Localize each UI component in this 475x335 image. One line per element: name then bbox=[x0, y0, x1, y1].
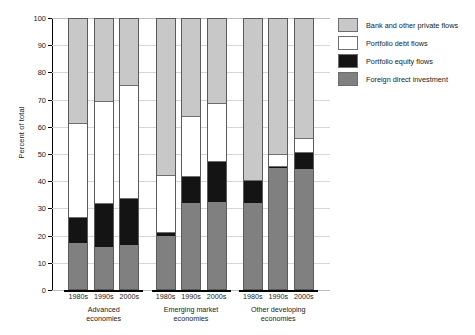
group-axis-rule bbox=[152, 290, 231, 292]
bar-segment bbox=[120, 245, 138, 289]
bar-segment bbox=[157, 175, 175, 232]
x-tick-label: 2000s bbox=[201, 292, 233, 301]
bar-segment bbox=[269, 18, 287, 154]
bar-segment bbox=[95, 18, 113, 101]
bar-segment bbox=[244, 180, 262, 203]
x-tick-label: 2000s bbox=[288, 292, 320, 301]
bar-segment bbox=[95, 101, 113, 203]
legend-item: Foreign direct investment bbox=[338, 70, 472, 88]
y-tick-mark bbox=[48, 181, 52, 182]
bar-segment bbox=[157, 236, 175, 289]
y-tick-label: 70 bbox=[38, 95, 46, 104]
legend-swatch bbox=[338, 72, 358, 86]
bar-stack bbox=[68, 18, 88, 290]
bar-segment bbox=[208, 161, 226, 202]
bar-segment bbox=[120, 85, 138, 198]
bar-segment bbox=[95, 203, 113, 247]
bar-segment bbox=[295, 169, 313, 289]
bar-segment bbox=[269, 168, 287, 289]
bar-segment bbox=[269, 154, 287, 165]
stacked-bar-chart: Percent of total 0102030405060708090100 … bbox=[0, 0, 475, 335]
bar-segment bbox=[269, 166, 287, 168]
group-label: Other developingeconomies bbox=[221, 305, 336, 323]
bar-segment bbox=[295, 152, 313, 170]
bar-segment bbox=[120, 18, 138, 85]
y-tick-mark bbox=[48, 208, 52, 209]
y-tick-mark bbox=[48, 45, 52, 46]
bar-segment bbox=[244, 18, 262, 180]
bar-segment bbox=[69, 217, 87, 243]
legend-label: Portfolio debt flows bbox=[366, 39, 428, 48]
y-tick-mark bbox=[48, 263, 52, 264]
y-tick-label: 100 bbox=[33, 14, 46, 23]
bar-segment bbox=[69, 243, 87, 289]
bar-segment bbox=[208, 202, 226, 289]
bar-stack bbox=[119, 18, 139, 290]
y-tick-mark bbox=[48, 72, 52, 73]
y-tick-label: 0 bbox=[42, 286, 46, 295]
bar-segment bbox=[69, 123, 87, 217]
y-tick-mark bbox=[48, 236, 52, 237]
bar-segment bbox=[182, 116, 200, 176]
group-label-line1: Other developing bbox=[221, 305, 336, 314]
legend-item: Portfolio debt flows bbox=[338, 34, 472, 52]
bar-stack bbox=[268, 18, 288, 290]
bar-segment bbox=[182, 203, 200, 289]
bar-segment bbox=[295, 138, 313, 152]
bar-segment bbox=[182, 18, 200, 116]
group-axis-rule bbox=[64, 290, 143, 292]
y-tick-mark bbox=[48, 100, 52, 101]
legend-item: Portfolio equity flows bbox=[338, 52, 472, 70]
legend-swatch bbox=[338, 36, 358, 50]
y-tick-label: 90 bbox=[38, 41, 46, 50]
legend-swatch bbox=[338, 54, 358, 68]
y-tick-label: 50 bbox=[38, 150, 46, 159]
y-tick-mark bbox=[48, 127, 52, 128]
x-tick-label: 2000s bbox=[113, 292, 145, 301]
bar-stack bbox=[156, 18, 176, 290]
legend-label: Portfolio equity flows bbox=[366, 57, 433, 66]
y-tick-label: 60 bbox=[38, 122, 46, 131]
legend-item: Bank and other private flows bbox=[338, 16, 472, 34]
y-tick-label: 10 bbox=[38, 258, 46, 267]
bar-segment bbox=[157, 18, 175, 175]
group-label-line2: economies bbox=[221, 314, 336, 323]
bar-segment bbox=[208, 18, 226, 103]
y-tick-label: 20 bbox=[38, 231, 46, 240]
y-axis-label: Percent of total bbox=[17, 78, 26, 188]
y-tick-label: 30 bbox=[38, 204, 46, 213]
bar-segment bbox=[120, 198, 138, 246]
bar-segment bbox=[95, 247, 113, 289]
bar-segment bbox=[69, 18, 87, 123]
bar-segment bbox=[295, 18, 313, 138]
bar-stack bbox=[207, 18, 227, 290]
group-axis-rule bbox=[239, 290, 318, 292]
legend-label: Bank and other private flows bbox=[366, 21, 458, 30]
plot-area bbox=[52, 18, 330, 290]
bar-segment bbox=[182, 176, 200, 203]
y-tick-label: 40 bbox=[38, 177, 46, 186]
bar-stack bbox=[94, 18, 114, 290]
y-tick-label: 80 bbox=[38, 68, 46, 77]
bar-segment bbox=[157, 232, 175, 236]
bar-segment bbox=[208, 103, 226, 161]
bar-stack bbox=[243, 18, 263, 290]
bar-stack bbox=[181, 18, 201, 290]
y-tick-mark bbox=[48, 290, 52, 291]
legend-swatch bbox=[338, 18, 358, 32]
y-tick-mark bbox=[48, 154, 52, 155]
bar-segment bbox=[244, 203, 262, 289]
bar-stack bbox=[294, 18, 314, 290]
y-tick-mark bbox=[48, 18, 52, 19]
chart-legend: Bank and other private flowsPortfolio de… bbox=[338, 16, 472, 88]
legend-label: Foreign direct investment bbox=[366, 75, 448, 84]
